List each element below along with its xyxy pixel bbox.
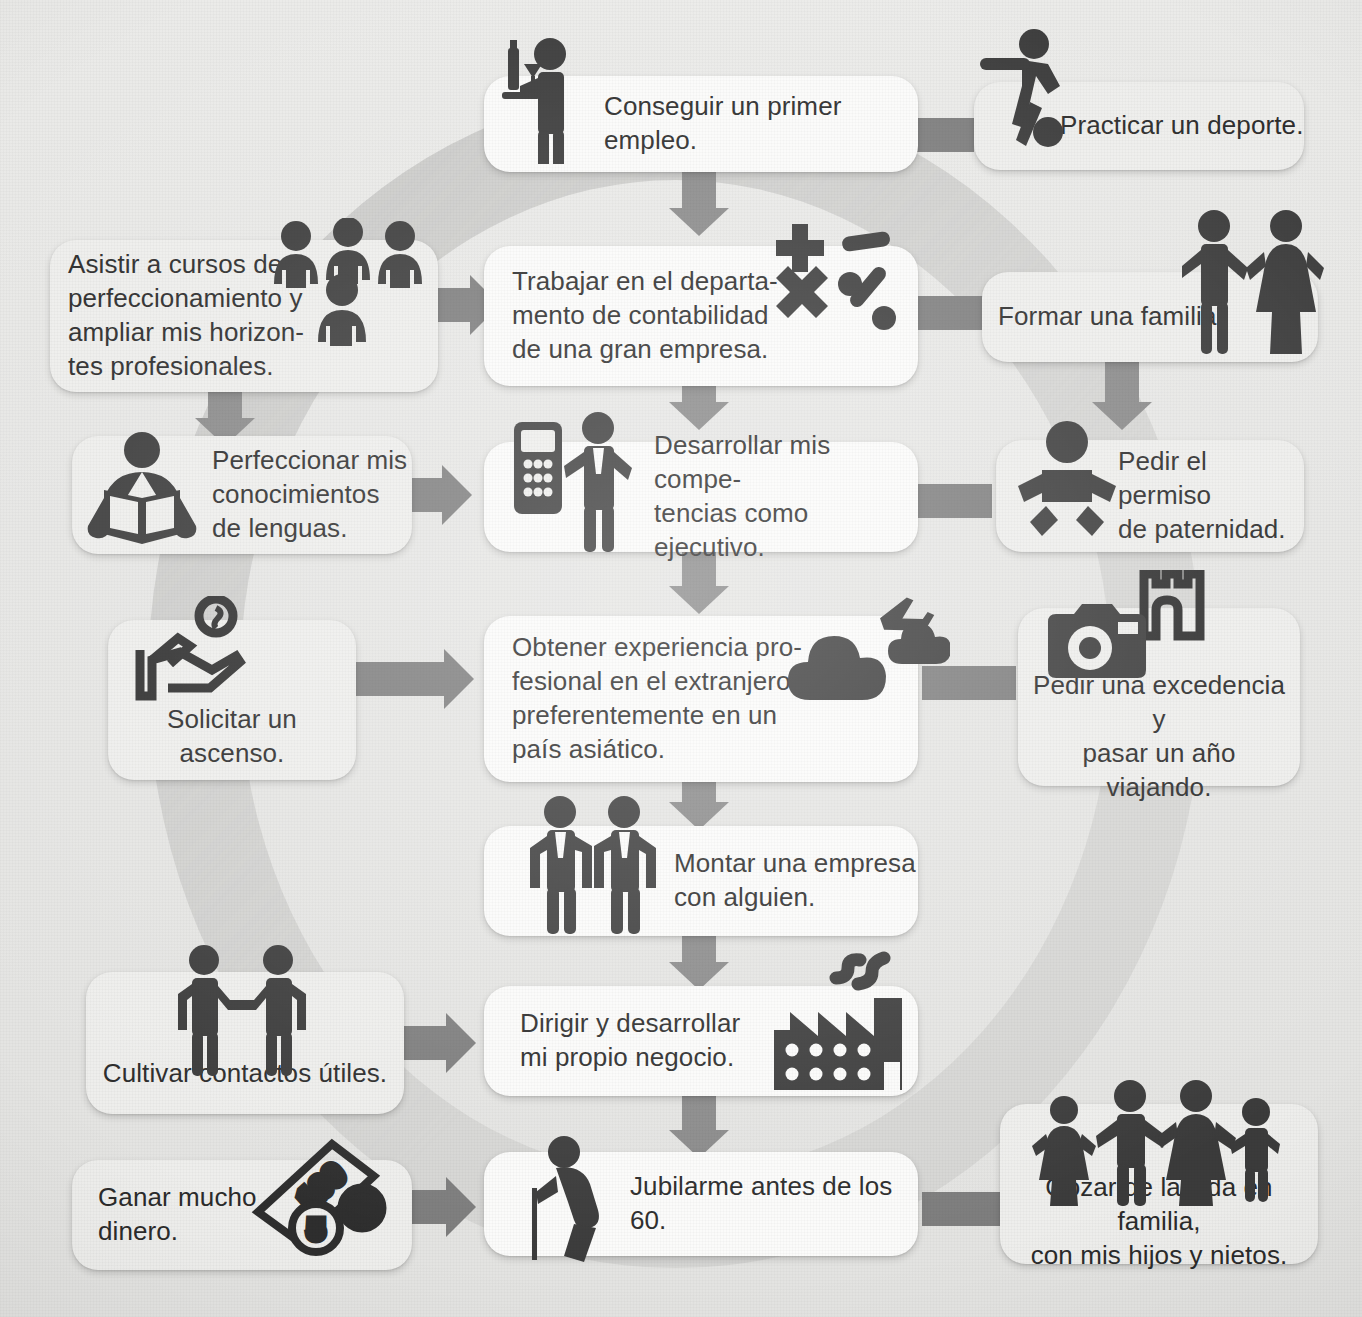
card-paternidad[interactable]: Pedir el permiso de paternidad.	[996, 440, 1304, 552]
card-excedencia[interactable]: Pedir una excedencia y pasar un año viaj…	[1018, 608, 1300, 786]
card-empresa-label: Montar una empresa con alguien.	[674, 847, 916, 915]
card-contactos-label: Cultivar contactos útiles.	[103, 1057, 387, 1091]
card-dinero[interactable]: Ganar mucho dinero.	[72, 1160, 412, 1270]
card-ejecutivo-label: Desarrollar mis compe- tencias como ejec…	[654, 429, 918, 564]
card-cursos-label: Asistir a cursos de perfeccionamiento y …	[68, 248, 304, 383]
arrow-right-ejecutivo-paternidad	[916, 484, 992, 518]
card-negocio[interactable]: Dirigir y desarrollar mi propio negocio.	[484, 986, 918, 1096]
arrow-right-ascenso-extranjero	[348, 662, 446, 696]
arrow-right-contabilidad-familia	[916, 296, 988, 330]
card-contactos[interactable]: Cultivar contactos útiles.	[86, 972, 404, 1114]
card-vida-familia[interactable]: Gozar de la vida en familia, con mis hij…	[1000, 1104, 1318, 1264]
diagram-canvas: Conseguir un primer empleo. Practicar un…	[0, 0, 1362, 1317]
card-familia-label: Formar una familia.	[998, 300, 1224, 334]
card-contabilidad[interactable]: Trabajar en el departa- mento de contabi…	[484, 246, 918, 386]
arrow-right-jubilacion-vidafamilia	[922, 1192, 1004, 1226]
card-cursos[interactable]: Asistir a cursos de perfeccionamiento y …	[50, 240, 438, 392]
card-paternidad-label: Pedir el permiso de paternidad.	[1118, 445, 1304, 546]
card-jubilacion[interactable]: Jubilarme antes de los 60.	[484, 1152, 918, 1256]
card-negocio-label: Dirigir y desarrollar mi propio negocio.	[520, 1007, 740, 1075]
card-deporte-label: Practicar un deporte.	[1060, 109, 1303, 143]
card-jubilacion-label: Jubilarme antes de los 60.	[630, 1170, 918, 1238]
card-dinero-label: Ganar mucho dinero.	[98, 1181, 257, 1249]
arrow-right-empleo-deporte	[912, 118, 974, 152]
card-familia[interactable]: Formar una familia.	[982, 272, 1318, 362]
card-excedencia-label: Pedir una excedencia y pasar un año viaj…	[1032, 669, 1286, 804]
card-primer-empleo[interactable]: Conseguir un primer empleo.	[484, 76, 918, 172]
card-extranjero-label: Obtener experiencia pro- fesional en el …	[512, 631, 802, 766]
card-primer-empleo-label: Conseguir un primer empleo.	[604, 90, 918, 158]
arrow-down-cursos-lenguas	[208, 388, 242, 420]
card-extranjero[interactable]: Obtener experiencia pro- fesional en el …	[484, 616, 918, 782]
arrow-right-extranjero-excedencia	[922, 666, 1016, 700]
card-ejecutivo[interactable]: Desarrollar mis compe- tencias como ejec…	[484, 442, 918, 552]
arrow-down-negocio-jubilacion	[682, 1096, 716, 1132]
arrow-down-empresa-negocio	[682, 932, 716, 964]
card-ascenso-label: Solicitar un ascenso.	[122, 703, 342, 771]
card-vida-familia-label: Gozar de la vida en familia, con mis hij…	[1012, 1171, 1306, 1272]
card-ascenso[interactable]: Solicitar un ascenso.	[108, 620, 356, 780]
card-lenguas[interactable]: Perfeccionar mis conocimientos de lengua…	[72, 436, 412, 554]
card-empresa[interactable]: Montar una empresa con alguien.	[484, 826, 918, 936]
card-contabilidad-label: Trabajar en el departa- mento de contabi…	[512, 265, 778, 366]
card-lenguas-label: Perfeccionar mis conocimientos de lengua…	[212, 444, 407, 545]
card-deporte[interactable]: Practicar un deporte.	[974, 82, 1304, 170]
arrow-down-empleo-contabilidad	[682, 170, 716, 210]
